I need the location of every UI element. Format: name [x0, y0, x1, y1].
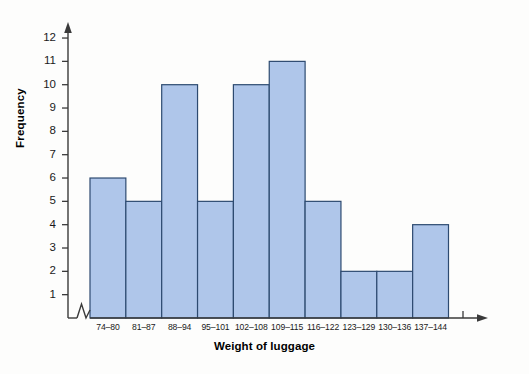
y-axis-tick-label: 2 [32, 265, 56, 277]
histogram-bar [126, 201, 162, 318]
histogram-bar [269, 61, 305, 318]
y-axis-ticks [62, 38, 68, 295]
arrow-right-icon [477, 314, 488, 321]
y-axis-tick-label: 12 [32, 32, 56, 44]
histogram-bar [198, 201, 234, 318]
x-axis-bin-label: 116–122 [305, 322, 341, 332]
x-axis-bin-label: 74–80 [90, 322, 126, 332]
x-axis-bin-label: 81–87 [126, 322, 162, 332]
y-axis-title: Frequency [14, 88, 26, 148]
x-axis-title: Weight of luggage [0, 340, 529, 352]
x-axis-bin-label: 102–108 [233, 322, 269, 332]
histogram-bar [233, 85, 269, 318]
x-axis-bin-label: 109–115 [269, 322, 305, 332]
histogram-bar [377, 271, 413, 318]
y-axis-tick-label: 1 [32, 289, 56, 301]
histogram-bar [90, 178, 126, 318]
x-axis-bin-label: 137–144 [413, 322, 449, 332]
chart-svg [0, 0, 529, 374]
histogram-bar [413, 225, 449, 318]
y-axis-tick-label: 5 [32, 195, 56, 207]
x-axis-bin-label: 130–136 [377, 322, 413, 332]
chart-plot-area: 123456789101112 74–8081–8788–9495–101102… [0, 0, 529, 374]
y-axis-tick-label: 9 [32, 102, 56, 114]
histogram-bar [162, 85, 198, 318]
y-axis-tick-label: 3 [32, 242, 56, 254]
y-axis-tick-label: 11 [32, 55, 56, 67]
x-axis-bin-label: 88–94 [162, 322, 198, 332]
bars-group [90, 61, 449, 318]
axis-break-icon [77, 304, 90, 318]
y-axis-tick-label: 6 [32, 172, 56, 184]
y-axis-tick-label: 8 [32, 125, 56, 137]
x-axis-bin-label: 123–129 [341, 322, 377, 332]
y-axis-tick-label: 7 [32, 149, 56, 161]
arrow-up-icon [64, 22, 72, 33]
x-axis-bin-label: 95–101 [198, 322, 234, 332]
y-axis-tick-label: 4 [32, 219, 56, 231]
histogram-figure: 123456789101112 74–8081–8788–9495–101102… [0, 0, 529, 374]
histogram-bar [305, 201, 341, 318]
y-axis-tick-label: 10 [32, 79, 56, 91]
histogram-bar [341, 271, 377, 318]
